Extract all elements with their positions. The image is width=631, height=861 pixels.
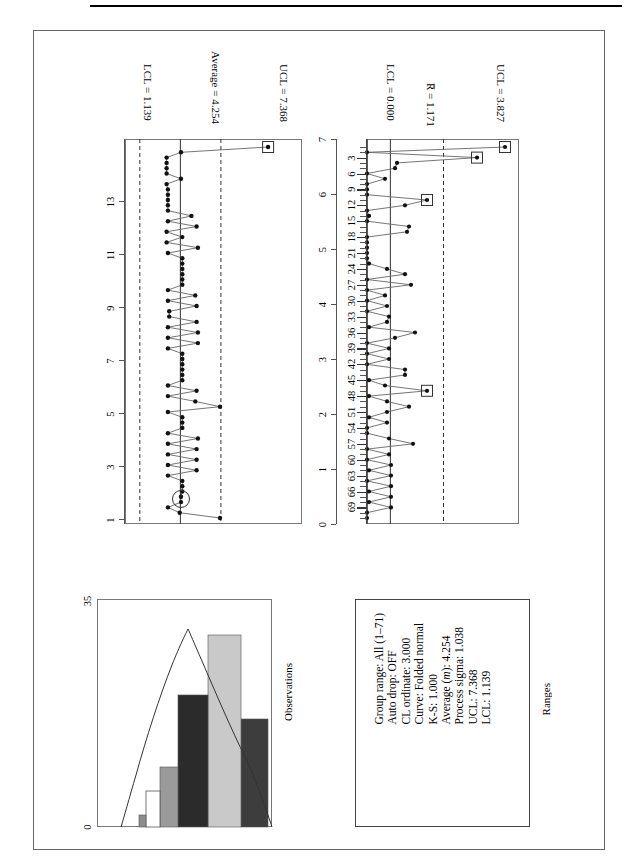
observations-y-ticklabel: 1 [106, 513, 116, 527]
ranges-x-minor-tick [360, 518, 366, 519]
ranges-x-ticklabel: 36 [347, 325, 357, 341]
observations-y-ticklabel: 9 [106, 301, 116, 315]
ranges-x-ticklabel: 45 [347, 372, 357, 388]
ranges-x-ticklabel: 63 [347, 468, 357, 484]
ranges-x-minor-tick [360, 306, 366, 307]
ranges-stats-panel: Ranges Group range: All (1–71)Auto drop:… [354, 571, 554, 833]
ranges-x-minor-tick [360, 370, 366, 371]
ranges-x-minor-tick [360, 513, 366, 514]
ranges-x-minor-tick [360, 248, 366, 249]
stats-lines-inner: Group range: All (1–71)Auto drop: OFFCL … [373, 613, 494, 724]
stats-line: Curve: Folded normal [414, 613, 427, 724]
histogram-axis-max: 35 [83, 593, 93, 609]
ranges-x-minor-tick [360, 311, 366, 312]
ranges-x-ticklabel: 33 [347, 309, 357, 325]
ranges-x-minor-tick [360, 168, 366, 169]
ranges-center-label: R̅ = 1.171 [425, 83, 437, 127]
ranges-y-ticklabel: 4 [318, 298, 328, 311]
ranges-x-ticklabel: 27 [347, 277, 357, 293]
ranges-x-ticklabel: 54 [347, 420, 357, 436]
histogram-axis-min: 0 [83, 819, 93, 835]
ranges-x-ticklabel: 21 [347, 245, 357, 261]
ranges-y-ticklabel: 7 [318, 133, 328, 146]
ranges-x-ticklabel: 6 [347, 166, 357, 182]
ranges-x-minor-tick [360, 274, 366, 275]
ranges-x-ticklabel: 48 [347, 388, 357, 404]
ranges-x-minor-tick [360, 481, 366, 482]
ranges-x-minor-tick [360, 354, 366, 355]
ranges-x-minor-tick [360, 184, 366, 185]
ranges-y-tick [331, 414, 336, 415]
ranges-y-ticklabel: 5 [318, 243, 328, 256]
ranges-y-ticklabel: 6 [318, 188, 328, 201]
ranges-ucl-label: UCL = 3.827 [495, 64, 507, 122]
ranges-x-ticklabel: 30 [347, 293, 357, 309]
ranges-y-tick [331, 469, 336, 470]
ranges-x-minor-tick [360, 359, 366, 360]
observations-plot-svg [125, 139, 302, 524]
ranges-x-ticklabel: 57 [347, 436, 357, 452]
ranges-x-ticklabel: 3 [347, 150, 357, 166]
ranges-x-minor-tick [360, 449, 366, 450]
page-root: UCL = 7.368 Average = 4.254 LCL = 1.139 [0, 0, 631, 861]
ranges-x-minor-tick [360, 200, 366, 201]
stats-line: Group range: All (1–71) [373, 613, 386, 724]
ranges-x-minor-tick [360, 375, 366, 376]
observations-histogram: Observations 35 0 [96, 571, 296, 833]
ranges-x-minor-tick [360, 179, 366, 180]
observations-y-axis [124, 139, 125, 524]
ranges-x-ticklabel: 69 [347, 499, 357, 515]
ranges-x-minor-tick [360, 486, 366, 487]
ranges-x-ticklabel: 39 [347, 340, 357, 356]
ranges-x-minor-tick [360, 343, 366, 344]
ranges-x-ticklabel: 42 [347, 356, 357, 372]
ranges-x-labels: 3691215182124273033363942454851545760636… [343, 139, 359, 524]
ranges-x-ticks [359, 139, 366, 524]
ranges-x-minor-tick [360, 407, 366, 408]
ranges-x-ticklabel: 60 [347, 452, 357, 468]
observations-y-ticklabel: 7 [106, 354, 116, 368]
ranges-x-minor-tick [360, 439, 366, 440]
ranges-x-minor-tick [360, 295, 366, 296]
ranges-x-minor-tick [360, 152, 366, 153]
ranges-x-ticklabel: 66 [347, 484, 357, 500]
ranges-y-tick [331, 304, 336, 305]
histogram-title: Observations [282, 663, 294, 721]
stats-panel-title: Ranges [540, 683, 552, 715]
observations-y-tick [119, 201, 124, 202]
stats-lines: Group range: All (1–71)Auto drop: OFFCL … [355, 599, 530, 827]
ranges-x-minor-tick [360, 497, 366, 498]
stats-line: LCL: 1.139 [481, 613, 494, 724]
stats-line: Auto drop: OFF [387, 613, 400, 724]
ranges-x-minor-tick [360, 401, 366, 402]
ranges-x-minor-tick [360, 322, 366, 323]
observations-y-tick [119, 307, 124, 308]
ranges-y-tick [331, 249, 336, 250]
ranges-lcl-label: LCL = 0.000 [385, 64, 397, 121]
ranges-x-ticklabel: 24 [347, 261, 357, 277]
observations-y-ticklabel: 13 [106, 195, 116, 209]
ranges-x-minor-tick [360, 280, 366, 281]
ranges-x-minor-tick [360, 211, 366, 212]
ranges-x-ticklabel: 15 [347, 213, 357, 229]
histogram-svg [97, 599, 272, 827]
stats-line: UCL: 7.368 [467, 613, 480, 724]
ranges-plot-svg [367, 139, 519, 524]
observations-y-ticklabel: 5 [106, 407, 116, 421]
ranges-x-minor-tick [360, 290, 366, 291]
ranges-x-minor-tick [360, 470, 366, 471]
ranges-x-minor-tick [360, 232, 366, 233]
ranges-x-minor-tick [360, 216, 366, 217]
ranges-x-ticklabel: 12 [347, 197, 357, 213]
ranges-x-ticklabel: 9 [347, 181, 357, 197]
ranges-x-minor-tick [360, 242, 366, 243]
observations-chart: UCL = 7.368 Average = 4.254 LCL = 1.139 [87, 39, 302, 524]
ranges-x-minor-tick [360, 258, 366, 259]
ranges-y-tick [331, 139, 336, 140]
ranges-x-minor-tick [360, 327, 366, 328]
observations-y-ticklabel: 3 [106, 460, 116, 474]
ranges-x-minor-tick [360, 264, 366, 265]
ranges-x-minor-tick [360, 423, 366, 424]
ranges-y-tick [331, 194, 336, 195]
ranges-chart: UCL = 3.827 R̅ = 1.171 LCL = 0.000 [289, 39, 519, 524]
